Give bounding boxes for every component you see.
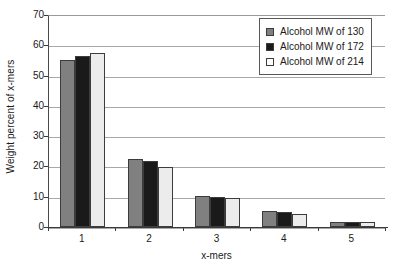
- legend-label: Alcohol MW of 130: [280, 26, 364, 37]
- y-axis-tick-label: 0: [22, 222, 44, 232]
- chart-legend: Alcohol MW of 130Alcohol MW of 172Alcoho…: [259, 18, 372, 75]
- bar: [210, 197, 225, 227]
- x-axis-tick-mark: [318, 227, 319, 231]
- legend-entry: Alcohol MW of 130: [266, 24, 364, 39]
- y-axis-tick-label: 10: [22, 192, 44, 202]
- legend-swatch-icon: [266, 28, 274, 36]
- x-axis-tick-label: 3: [197, 233, 237, 245]
- x-axis-tick-mark: [48, 227, 49, 231]
- x-axis-line: [48, 227, 388, 228]
- bar: [128, 159, 143, 227]
- bar: [143, 161, 158, 227]
- bar: [60, 60, 75, 227]
- gridline: [49, 228, 385, 229]
- bar-group: [116, 16, 183, 227]
- y-axis-tick-label: 50: [22, 71, 44, 81]
- bar-chart-figure: Weight percent of x-mers 010203040506070…: [0, 0, 403, 272]
- y-axis-tick-label: 20: [22, 161, 44, 171]
- bar: [158, 167, 173, 227]
- x-axis-tick-label: 5: [331, 233, 371, 245]
- bar: [262, 211, 277, 227]
- bar-group: [49, 16, 116, 227]
- y-axis-tick-label: 70: [22, 10, 44, 20]
- bar: [277, 212, 292, 227]
- y-axis-tick-label: 40: [22, 101, 44, 111]
- bar: [195, 196, 210, 227]
- bar: [225, 198, 240, 227]
- x-axis-tick-label: 4: [264, 233, 304, 245]
- legend-entry: Alcohol MW of 214: [266, 54, 364, 69]
- x-axis-tick-label: 2: [129, 233, 169, 245]
- y-axis-title: Weight percent of x-mers: [0, 0, 22, 232]
- legend-label: Alcohol MW of 172: [280, 41, 364, 52]
- x-axis-tick-mark: [183, 227, 184, 231]
- x-axis-tick-label: 1: [62, 233, 102, 245]
- x-axis-tick-mark: [115, 227, 116, 231]
- x-axis-tick-mark: [250, 227, 251, 231]
- legend-swatch-icon: [266, 43, 274, 51]
- y-axis-tick-label: 60: [22, 40, 44, 50]
- y-axis-title-text: Weight percent of x-mers: [6, 59, 17, 173]
- legend-entry: Alcohol MW of 172: [266, 39, 364, 54]
- bar-group: [184, 16, 251, 227]
- legend-label: Alcohol MW of 214: [280, 56, 364, 67]
- bar: [75, 56, 90, 227]
- x-axis-title: x-mers: [48, 250, 385, 261]
- bar: [292, 214, 307, 227]
- y-axis-tick-label: 30: [22, 131, 44, 141]
- bar: [90, 53, 105, 227]
- x-axis-tick-mark: [385, 227, 386, 231]
- legend-swatch-icon: [266, 58, 274, 66]
- y-axis-tick-labels: 010203040506070: [22, 15, 44, 227]
